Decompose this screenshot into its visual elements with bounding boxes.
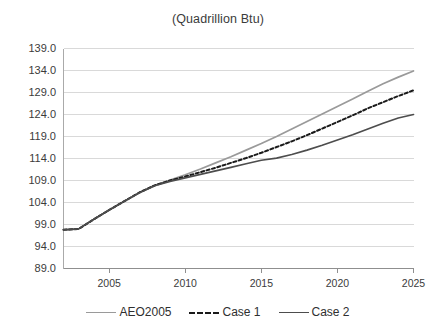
chart-legend: AEO2005Case 1Case 2 [0, 300, 436, 324]
x-axis-tick-label: 2020 [315, 278, 359, 289]
legend-line-icon [189, 307, 219, 318]
y-axis-tick-label: 109.0 [14, 175, 56, 186]
y-axis-tick-label: 119.0 [14, 131, 56, 142]
y-axis-tick-label: 124.0 [14, 109, 56, 120]
y-axis-tick-label: 139.0 [14, 43, 56, 54]
legend-label: Case 2 [312, 305, 350, 319]
legend-item-aeo2005[interactable]: AEO2005 [86, 305, 171, 319]
series-line-case-1 [64, 90, 414, 229]
y-axis-tick-label: 114.0 [14, 153, 56, 164]
y-axis-tick-label: 129.0 [14, 87, 56, 98]
legend-item-case-2[interactable]: Case 2 [279, 305, 350, 319]
y-axis-tick-label: 89.0 [14, 263, 56, 274]
chart-container: (Quadrillion Btu) 139.0134.0129.0124.011… [0, 0, 436, 329]
x-axis-tick-label: 2005 [87, 278, 131, 289]
legend-item-case-1[interactable]: Case 1 [189, 305, 260, 319]
x-axis-tick-label: 2025 [392, 278, 436, 289]
x-axis-tick-label: 2015 [239, 278, 283, 289]
y-axis-tick-label: 99.0 [14, 219, 56, 230]
legend-label: AEO2005 [119, 305, 171, 319]
x-axis-tick-label: 2010 [163, 278, 207, 289]
legend-line-icon [279, 307, 309, 318]
y-axis-tick-label: 134.0 [14, 65, 56, 76]
legend-line-icon [86, 307, 116, 318]
y-axis-tick-label: 94.0 [14, 241, 56, 252]
y-axis-tick-label: 104.0 [14, 197, 56, 208]
plot-area [0, 0, 436, 329]
legend-label: Case 1 [222, 305, 260, 319]
series-line-case-2 [64, 115, 414, 230]
